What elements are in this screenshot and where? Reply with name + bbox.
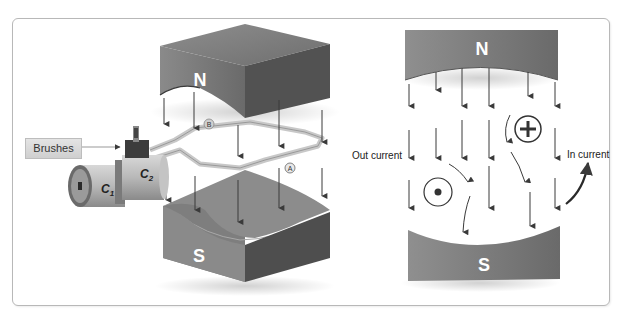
right-field-arrows [409,68,555,232]
in-current-rotation-arrow [566,163,588,204]
right-south-label: S [478,255,490,275]
left-south-label: S [193,246,205,266]
motor-diagram: C1 C2 B A N S N S [0,0,628,315]
brushes-label: Brushes [25,138,82,159]
svg-text:A: A [288,165,293,172]
commutator [68,155,169,207]
south-magnet-3d [155,170,335,296]
out-current-symbol [424,178,452,206]
north-magnet-3d [150,24,340,126]
out-current-label: Out current [352,150,402,161]
in-current-label: In current [567,149,609,160]
coil-side-b-marker: B [204,119,214,129]
in-current-symbol [515,116,541,142]
armature-coil [150,122,322,168]
left-north-label: N [194,70,207,90]
brush [125,126,149,158]
coil-side-a-marker: A [285,163,295,173]
svg-text:B: B [207,121,212,128]
right-north-label: N [476,39,489,59]
